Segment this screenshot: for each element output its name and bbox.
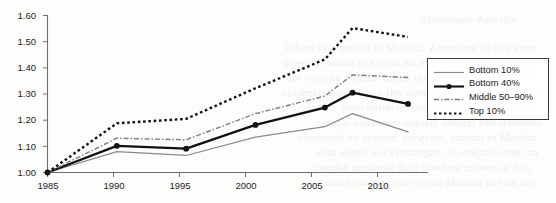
y-tick-label: 1.10 bbox=[6, 141, 36, 152]
y-tick-label: 1.50 bbox=[6, 36, 36, 47]
y-tick-label: 1.00 bbox=[6, 167, 36, 178]
x-tick-label: 2010 bbox=[358, 180, 398, 191]
legend-swatch-middle-50-90-icon bbox=[433, 91, 465, 102]
series-line bbox=[48, 114, 409, 173]
x-tick-label: 1995 bbox=[160, 180, 200, 191]
series-marker bbox=[405, 101, 411, 107]
data-series-group bbox=[45, 28, 411, 175]
x-tick-label: 1990 bbox=[94, 180, 134, 191]
series-marker bbox=[253, 122, 259, 128]
legend-swatch-top-10-icon bbox=[433, 105, 465, 116]
axis-lines bbox=[47, 15, 428, 173]
series-marker bbox=[183, 146, 189, 152]
x-tick-label: 1985 bbox=[28, 180, 68, 191]
series-line bbox=[48, 93, 409, 173]
legend-item-top-10: Top 10% bbox=[428, 104, 548, 118]
chart-legend: Bottom 10% Bottom 40% Middle 50–90% Top … bbox=[427, 58, 549, 120]
series-marker bbox=[322, 105, 328, 111]
series-line bbox=[48, 75, 409, 173]
legend-swatch-bottom-10-icon bbox=[433, 64, 465, 75]
legend-item-bottom-10: Bottom 10% bbox=[428, 63, 548, 77]
legend-label: Middle 50–90% bbox=[469, 92, 533, 102]
y-tick-label: 1.30 bbox=[6, 88, 36, 99]
series-marker bbox=[350, 90, 356, 96]
legend-label: Bottom 40% bbox=[469, 78, 520, 88]
x-tick-marks bbox=[48, 173, 378, 178]
y-tick-label: 1.40 bbox=[6, 62, 36, 73]
y-tick-label: 1.60 bbox=[6, 10, 36, 21]
y-tick-label: 1.20 bbox=[6, 114, 36, 125]
series-marker bbox=[114, 143, 120, 149]
legend-swatch-bottom-40-icon bbox=[433, 78, 465, 89]
legend-item-bottom-40: Bottom 40% bbox=[428, 77, 548, 91]
x-tick-label: 2005 bbox=[292, 180, 332, 191]
y-tick-marks bbox=[43, 16, 48, 173]
x-tick-label: 2000 bbox=[226, 180, 266, 191]
chart-figure: viivitoA-siamorioiJ uoqa sidt ni ensludm… bbox=[0, 0, 556, 203]
legend-label: Top 10% bbox=[469, 106, 505, 116]
legend-label: Bottom 10% bbox=[469, 65, 520, 75]
legend-item-middle-50-90: Middle 50–90% bbox=[428, 90, 548, 104]
